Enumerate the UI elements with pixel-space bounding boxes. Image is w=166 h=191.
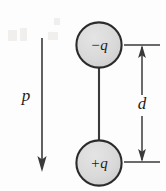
negative-charge: −q bbox=[76, 22, 121, 67]
dipole-figure: −q +q p d bbox=[0, 0, 166, 191]
positive-charge: +q bbox=[76, 140, 121, 185]
dipole-moment-vector bbox=[37, 38, 46, 172]
separation-distance-label: d bbox=[138, 94, 147, 113]
negative-charge-label: −q bbox=[90, 37, 108, 53]
dipole-moment-label: p bbox=[21, 86, 31, 105]
positive-charge-label: +q bbox=[90, 155, 108, 171]
diagram-canvas: −q +q p d bbox=[0, 0, 166, 191]
